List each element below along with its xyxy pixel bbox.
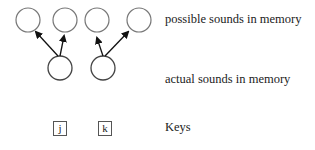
label-possible-sounds: possible sounds in memory bbox=[165, 12, 301, 27]
key-k[interactable]: k bbox=[98, 121, 112, 136]
possible-sound-circle-2 bbox=[53, 8, 77, 32]
actual-sound-circle-1 bbox=[48, 56, 72, 80]
actual-sound-circle-2 bbox=[91, 56, 115, 80]
possible-sound-circle-1 bbox=[16, 8, 40, 32]
possible-sound-circle-3 bbox=[85, 8, 109, 32]
key-j[interactable]: j bbox=[53, 121, 67, 136]
arrow-4 bbox=[105, 32, 128, 56]
arrow-1 bbox=[36, 32, 58, 56]
actual-sound-circles bbox=[48, 56, 115, 80]
label-keys: Keys bbox=[165, 120, 191, 135]
arrows bbox=[36, 32, 128, 56]
arrow-3 bbox=[97, 38, 103, 56]
arrow-2 bbox=[60, 36, 64, 56]
possible-sound-circle-4 bbox=[127, 8, 151, 32]
label-actual-sounds: actual sounds in memory bbox=[165, 72, 290, 87]
possible-sound-circles bbox=[16, 8, 151, 32]
